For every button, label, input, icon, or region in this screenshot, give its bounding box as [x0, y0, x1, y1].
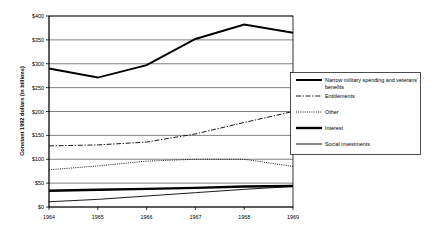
series-line-1: [49, 112, 293, 146]
x-axis-ticks: 196419651966196719681969: [43, 207, 299, 220]
series-line-0: [49, 25, 293, 78]
legend-label-0-cont[interactable]: benefits: [325, 84, 344, 90]
y-tick-label: $150: [32, 132, 44, 138]
line-chart: $0$50$100$150$200$250$300$350$400 196419…: [0, 0, 434, 243]
gridlines: [49, 16, 293, 183]
x-tick-label: 1967: [189, 214, 201, 220]
y-tick-label: $0: [38, 204, 44, 210]
legend-label-1[interactable]: Entitlements: [325, 93, 355, 99]
y-axis-title: Constant 1992 dollars (in billions): [19, 66, 25, 156]
data-series: [49, 25, 293, 202]
legend-label-2[interactable]: Other: [325, 109, 339, 115]
x-tick-label: 1965: [92, 214, 104, 220]
y-tick-label: $250: [32, 85, 44, 91]
x-tick-label: 1966: [141, 214, 153, 220]
series-line-2: [49, 159, 293, 170]
y-tick-label: $350: [32, 37, 44, 43]
legend-label-4[interactable]: Social investments: [325, 141, 370, 147]
y-tick-label: $200: [32, 109, 44, 115]
legend-label-0[interactable]: Narrow military spending and veterans': [325, 77, 418, 83]
y-tick-label: $400: [32, 13, 44, 19]
y-tick-label: $300: [32, 61, 44, 67]
y-tick-label: $100: [32, 156, 44, 162]
x-tick-label: 1969: [287, 214, 299, 220]
legend-label-3[interactable]: Interest: [325, 125, 343, 131]
y-tick-label: $50: [35, 180, 44, 186]
chart-canvas: $0$50$100$150$200$250$300$350$400 196419…: [0, 0, 434, 243]
y-axis-ticks: $0$50$100$150$200$250$300$350$400: [32, 13, 49, 210]
x-tick-label: 1968: [238, 214, 250, 220]
x-tick-label: 1964: [43, 214, 55, 220]
